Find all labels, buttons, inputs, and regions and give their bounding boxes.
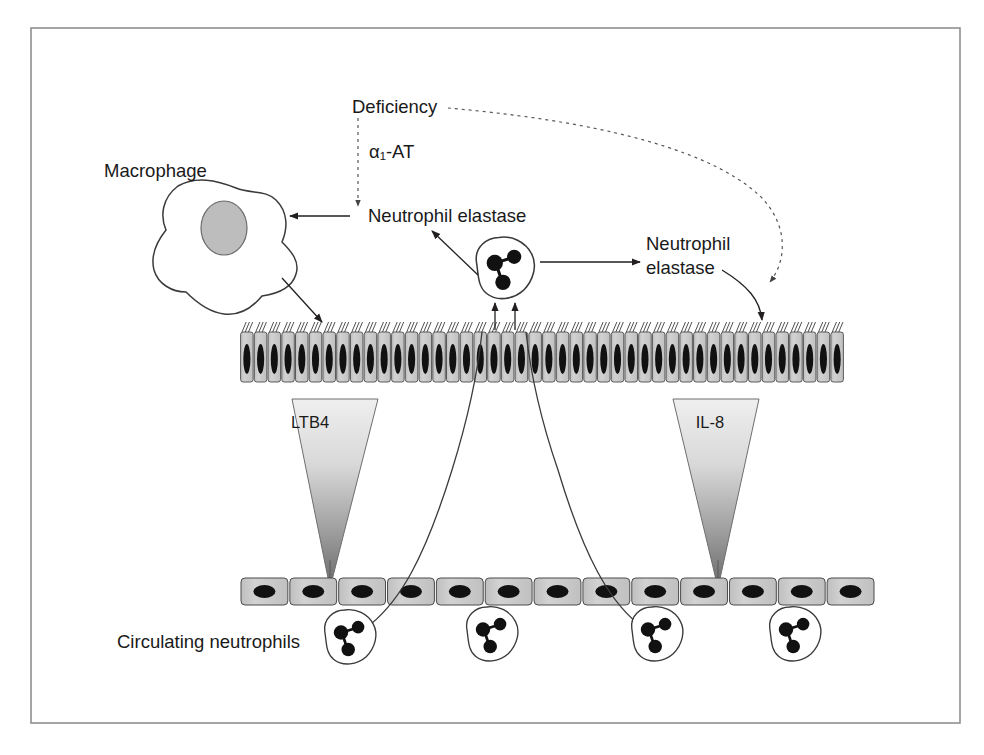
epithelial-cell-nucleus — [298, 344, 305, 374]
epithelial-cell-nucleus — [408, 344, 415, 374]
epithelial-cell-nucleus — [586, 344, 593, 374]
epithelial-cell-nucleus — [820, 344, 827, 374]
macrophage-nucleus — [201, 201, 247, 255]
endothelial-cell-nucleus — [644, 585, 666, 598]
epithelial-cell-nucleus — [641, 344, 648, 374]
endothelial-cell-nucleus — [693, 585, 715, 598]
epithelial-cell-nucleus — [834, 344, 841, 374]
epithelial-cell-nucleus — [353, 344, 360, 374]
neutrophil-transmigrating — [476, 237, 534, 299]
epithelial-cell-nucleus — [683, 344, 690, 374]
endothelial-cell-nucleus — [498, 585, 520, 598]
epithelial-cell-nucleus — [669, 344, 676, 374]
label-neutrophil-elastase-right-line2: elastase — [646, 257, 715, 278]
epithelial-cell-nucleus — [696, 344, 703, 374]
endothelium-cells — [241, 578, 874, 605]
label-il8: IL-8 — [696, 413, 724, 431]
label-circulating-neutrophils: Circulating neutrophils — [117, 631, 300, 652]
endothelial-cell-nucleus — [840, 585, 862, 598]
epithelial-cell-nucleus — [257, 344, 264, 374]
epithelial-cell-nucleus — [559, 344, 566, 374]
endothelial-cell-nucleus — [253, 585, 275, 598]
epithelial-cell-nucleus — [422, 344, 429, 374]
arrow-right-elastase-to-epithelium — [722, 270, 762, 320]
epithelial-cell-nucleus — [765, 344, 772, 374]
epithelial-cell-nucleus — [463, 344, 470, 374]
label-neutrophil-elastase-right-line1: Neutrophil — [646, 233, 730, 254]
endothelial-cell-nucleus — [742, 585, 764, 598]
epithelial-cell-nucleus — [435, 344, 442, 374]
epithelial-cell-nucleus — [737, 344, 744, 374]
endothelial-cell-nucleus — [449, 585, 471, 598]
epithelial-cell-nucleus — [792, 344, 799, 374]
figure-root: Deficiency α₁-AT Neutrophil elastase Neu… — [0, 0, 984, 755]
epithelial-cell-nucleus — [381, 344, 388, 374]
label-ltb4: LTB4 — [291, 413, 329, 431]
epithelial-cell-nucleus — [545, 344, 552, 374]
epithelial-cell-nucleus — [573, 344, 580, 374]
neutrophil-circulating-3 — [632, 607, 683, 661]
epithelial-cell-nucleus — [394, 344, 401, 374]
arrow-neutrophil-releases-elastase — [432, 231, 478, 275]
epithelial-cell-nucleus — [367, 344, 374, 374]
epithelial-cell-nucleus — [284, 344, 291, 374]
epithelial-cell-nucleus — [271, 344, 278, 374]
epithelial-cell-nucleus — [326, 344, 333, 374]
epithelial-cell-nucleus — [751, 344, 758, 374]
endothelial-cell-nucleus — [791, 585, 813, 598]
endothelial-cell-nucleus — [351, 585, 373, 598]
epithelium-cells — [241, 322, 844, 382]
neutrophil-circulating-2 — [467, 607, 518, 661]
endothelial-cell-nucleus — [302, 585, 324, 598]
endothelial-cell-nucleus — [547, 585, 569, 598]
epithelial-cell-nucleus — [532, 344, 539, 374]
label-macrophage: Macrophage — [104, 160, 207, 181]
neutrophil-circulating-1 — [325, 610, 376, 664]
macrophage-cell — [153, 180, 297, 314]
epithelial-cell-nucleus — [449, 344, 456, 374]
diagram-canvas: Deficiency α₁-AT Neutrophil elastase Neu… — [0, 0, 984, 755]
neutrophil-circulating-4 — [770, 607, 821, 661]
epithelial-cell-nucleus — [312, 344, 319, 374]
epithelial-cell-nucleus — [490, 344, 497, 374]
epithelial-cell-nucleus — [628, 344, 635, 374]
epithelial-cell-nucleus — [614, 344, 621, 374]
epithelial-cell-nucleus — [600, 344, 607, 374]
label-deficiency: Deficiency — [352, 96, 438, 117]
epithelial-cell-nucleus — [779, 344, 786, 374]
arrow-macrophage-to-epithelium — [282, 278, 322, 322]
epithelial-cell-nucleus — [243, 344, 250, 374]
epithelial-cell-nucleus — [339, 344, 346, 374]
label-neutrophil-elastase-left: Neutrophil elastase — [368, 205, 526, 226]
epithelial-cell-nucleus — [724, 344, 731, 374]
epithelial-cell-nucleus — [518, 344, 525, 374]
epithelial-cell-nucleus — [710, 344, 717, 374]
epithelial-cell-nucleus — [655, 344, 662, 374]
label-alpha1-at: α₁-AT — [369, 141, 414, 162]
epithelial-cell-nucleus — [806, 344, 813, 374]
epithelial-cell-nucleus — [504, 344, 511, 374]
